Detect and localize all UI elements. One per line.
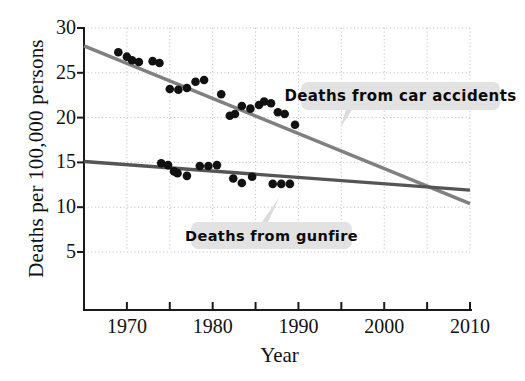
y-axis-title: Deaths per 100,000 persons <box>24 19 49 299</box>
x-tick-label: 1990 <box>263 316 333 336</box>
x-tick-label: 2010 <box>435 316 505 336</box>
x-axis-title: Year <box>0 343 525 368</box>
x-axis-title-text: Year <box>260 343 299 367</box>
annotation-gunfire: Deaths from gunfire <box>191 222 352 249</box>
x-tick-label: 2000 <box>349 316 419 336</box>
scatter-plot-figure: 30252015105 19701980199020002010 Deaths … <box>0 0 525 381</box>
x-tick-label: 1970 <box>92 316 162 336</box>
annotation-car-accidents: Deaths from car accidents <box>301 82 500 110</box>
trend-lines <box>84 46 470 204</box>
x-tick-label: 1980 <box>178 316 248 336</box>
callout-leader-lines <box>262 110 352 222</box>
axis-ticks <box>77 28 470 310</box>
